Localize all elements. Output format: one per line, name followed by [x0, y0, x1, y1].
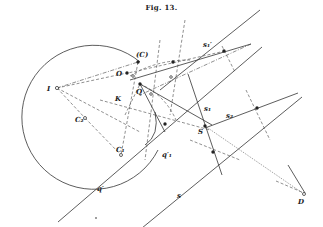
label-D: D	[297, 197, 305, 206]
line-s1p-left-c	[140, 44, 251, 95]
line-dash-lower	[190, 140, 240, 160]
point-C2	[84, 117, 87, 120]
point-I	[55, 86, 58, 89]
line-q-prime	[58, 47, 262, 222]
ray-I-C	[57, 62, 138, 88]
line-dash-right	[246, 90, 270, 140]
label-s2: s₂	[226, 111, 233, 120]
label-S: S	[198, 127, 203, 136]
label-s1: s₁	[204, 104, 211, 113]
point-center-a	[170, 76, 173, 79]
line-D-b	[276, 181, 304, 193]
label-C-paren: (C)	[136, 50, 148, 59]
line-s	[142, 97, 302, 227]
line-s2	[205, 93, 298, 128]
label-q1-prime: q′₁	[162, 150, 172, 159]
geometric-construction-diagram: I (C) O Q K C₂ C₁ q′ q′₁ s₁′ s₁ s₂ S s D	[0, 0, 323, 227]
point-D	[303, 193, 306, 196]
stray-dot	[95, 217, 97, 219]
point-center-c	[163, 122, 166, 125]
point-S	[203, 124, 206, 127]
label-O: O	[116, 69, 123, 78]
point-center-b	[150, 93, 153, 96]
point-lower-S	[211, 150, 214, 153]
label-s: s	[177, 191, 181, 200]
arc-inner	[140, 84, 176, 120]
label-K: K	[114, 94, 122, 103]
label-Q: Q	[136, 87, 142, 96]
label-C2: C₂	[75, 115, 84, 124]
line-C-down	[121, 62, 138, 155]
label-C1: C₁	[116, 145, 125, 154]
line-upper-right	[160, 10, 260, 90]
point-Q	[138, 82, 141, 85]
point-s2-intersect	[255, 106, 258, 109]
ray-I-C2	[57, 88, 85, 118]
line-horizontal-dash	[100, 100, 210, 130]
point-C-paren	[136, 60, 139, 63]
point-O	[125, 71, 128, 74]
label-I: I	[46, 84, 51, 93]
point-q-intersect	[171, 60, 174, 63]
point-s1-prime	[222, 49, 225, 52]
label-q-prime: q′	[97, 184, 104, 193]
point-O2	[132, 75, 135, 78]
label-s1-prime: s₁′	[203, 40, 212, 49]
large-circle	[22, 45, 158, 189]
